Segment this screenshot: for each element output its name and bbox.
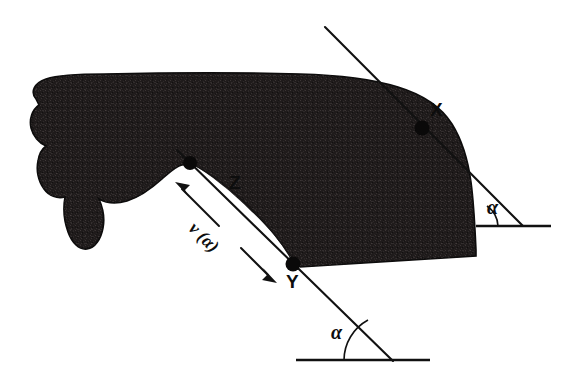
label-point-z: Z xyxy=(229,173,241,192)
label-alpha-lower: α xyxy=(331,322,342,342)
point-marker-y xyxy=(286,257,301,272)
shaded-set-region xyxy=(0,0,567,384)
point-marker-x xyxy=(415,121,430,136)
label-point-x: X xyxy=(430,100,443,119)
label-alpha-upper: α xyxy=(487,197,498,217)
figure-svg xyxy=(0,0,567,384)
set-texture-overlay xyxy=(0,0,567,384)
point-marker-z xyxy=(183,156,197,170)
label-point-y: Y xyxy=(286,272,299,291)
diagram-canvas: X Y Z α α v (α) xyxy=(0,0,567,384)
